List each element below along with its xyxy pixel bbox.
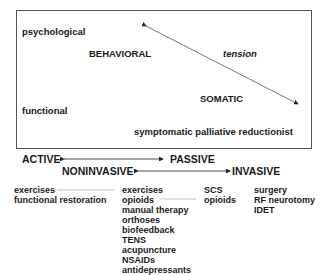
- list-item: manual therapy: [122, 205, 191, 215]
- list-item: acupuncture: [122, 245, 191, 255]
- column-invasive: surgery RF neurotomy IDET: [254, 185, 315, 215]
- list-item: exercises: [122, 185, 191, 195]
- column-passive-noninvasive: exercises opioids manual therapy orthose…: [122, 185, 191, 275]
- label-psychological: psychological: [22, 26, 85, 37]
- list-item: exercises: [14, 185, 107, 195]
- label-somatic: SOMATIC: [200, 93, 243, 104]
- list-item: IDET: [254, 205, 315, 215]
- list-item: antidepressants: [122, 265, 191, 275]
- label-tension: tension: [223, 48, 257, 59]
- list-item: opioids: [204, 195, 236, 205]
- list-item: orthoses: [122, 215, 191, 225]
- list-item: opioids: [122, 195, 191, 205]
- label-functional: functional: [22, 105, 67, 116]
- list-item: TENS: [122, 235, 191, 245]
- list-item: functional restoration: [14, 195, 107, 205]
- label-invasive: INVASIVE: [232, 165, 280, 177]
- list-item: surgery: [254, 185, 315, 195]
- list-item: biofeedback: [122, 225, 191, 235]
- label-passive: PASSIVE: [170, 153, 215, 165]
- label-behavioral: BEHAVIORAL: [89, 48, 151, 59]
- list-item: NSAIDs: [122, 255, 191, 265]
- list-item: RF neurotomy: [254, 195, 315, 205]
- column-minimally-invasive: SCS opioids: [204, 185, 236, 205]
- label-noninvasive: NONINVASIVE: [62, 165, 134, 177]
- column-active: exercises functional restoration: [14, 185, 107, 205]
- label-symptomatic: symptomatic palliative reductionist: [134, 126, 293, 137]
- list-item: SCS: [204, 185, 236, 195]
- label-active: ACTIVE: [22, 153, 61, 165]
